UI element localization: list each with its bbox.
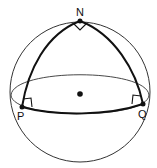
- arc-NP: [22, 21, 80, 107]
- point-Q: [141, 102, 146, 107]
- label-Q: Q: [138, 108, 147, 120]
- point-P: [20, 105, 25, 110]
- arc-NQ: [80, 21, 143, 104]
- sphere-diagram: N P Q: [0, 0, 157, 168]
- center-dot: [77, 91, 83, 97]
- right-angle-marker-P: [23, 98, 32, 107]
- right-angle-marker-Q: [132, 95, 141, 104]
- label-P: P: [17, 110, 24, 122]
- label-N: N: [76, 6, 84, 18]
- right-angle-marker-N: [74, 24, 86, 30]
- point-N: [78, 19, 83, 24]
- arc-PQ: [22, 104, 143, 113]
